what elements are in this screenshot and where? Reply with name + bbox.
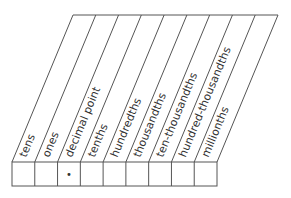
- place-value-diagram: tensonesdecimal pointtenthshundredthstho…: [0, 0, 291, 198]
- column-label: tens: [17, 132, 38, 159]
- slant-divider: [12, 15, 73, 162]
- slant-divider: [126, 15, 187, 162]
- slant-divider: [149, 15, 210, 162]
- slant-divider: [58, 15, 119, 162]
- digit-row: [12, 162, 217, 186]
- decimal-point-dot: •: [66, 169, 72, 180]
- slant-divider: [103, 15, 164, 162]
- slant-divider: [217, 15, 278, 162]
- column-label: ones: [40, 130, 62, 159]
- slant-divider: [35, 15, 96, 162]
